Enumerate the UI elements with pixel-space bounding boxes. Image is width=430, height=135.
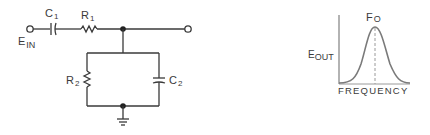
ground-icon	[117, 119, 129, 125]
frequency-response-graph	[339, 15, 410, 84]
resistor-r1	[81, 26, 97, 32]
input-terminal	[27, 26, 33, 32]
label-fo: FO	[366, 11, 381, 24]
label-r1: R1	[81, 9, 95, 23]
label-eout: EOUT	[308, 49, 334, 62]
output-terminal	[185, 26, 191, 32]
label-c1: C1	[45, 7, 59, 21]
label-r2: R2	[66, 74, 80, 88]
label-ein: EIN	[18, 35, 35, 50]
circuit	[27, 23, 191, 125]
label-frequency: FREQUENCY	[338, 85, 408, 96]
resistor-r2	[84, 71, 90, 87]
band-pass-filter-diagram: C1 R1 EIN R2 C2 FO EOUT FREQUENCY	[0, 0, 430, 135]
label-c2: C2	[169, 74, 183, 88]
